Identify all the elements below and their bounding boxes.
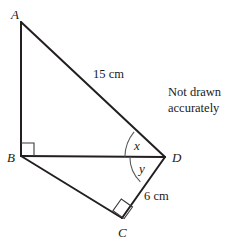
not-drawn-accurately-note: Not drawn accurately bbox=[168, 84, 221, 116]
angle-arc-x bbox=[125, 132, 134, 157]
edge-ad bbox=[21, 22, 165, 157]
measure-label-cd: 6 cm bbox=[144, 190, 169, 203]
right-angle-marker-b bbox=[21, 143, 34, 156]
edge-bc bbox=[21, 156, 122, 218]
note-line-1: Not drawn bbox=[168, 84, 221, 100]
vertex-label-b: B bbox=[7, 151, 15, 164]
angle-label-x: x bbox=[134, 139, 140, 152]
angle-label-y: y bbox=[139, 162, 145, 175]
measure-label-ad: 15 cm bbox=[93, 68, 124, 81]
geometry-figure: A B C D x y 15 cm 6 cm Not drawn accurat… bbox=[0, 0, 242, 243]
vertex-label-c: C bbox=[118, 226, 127, 239]
note-line-2: accurately bbox=[168, 100, 221, 116]
edge-bd bbox=[21, 156, 165, 157]
vertex-label-d: D bbox=[172, 151, 181, 164]
diagram-canvas bbox=[0, 0, 242, 243]
vertex-label-a: A bbox=[11, 8, 19, 21]
